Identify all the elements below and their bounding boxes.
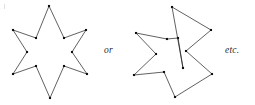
vertex-marker <box>210 29 212 31</box>
vertex-marker <box>35 65 37 67</box>
vertex-marker <box>177 37 179 39</box>
vertex-marker <box>86 73 88 75</box>
vertex-marker <box>48 5 50 7</box>
vertex-marker <box>163 71 165 73</box>
figure-canvas: or etc. <box>0 0 255 105</box>
vertex-marker <box>211 73 213 75</box>
six-pointed-star-outline <box>13 6 87 98</box>
vertex-marker <box>12 73 14 75</box>
vertex-marker <box>26 51 28 53</box>
irregular-five-pointed-star-group <box>133 6 213 98</box>
irregular-five-pointed-star-vertices <box>133 6 213 98</box>
vertex-marker <box>12 29 14 31</box>
star-polygons-svg <box>0 0 255 105</box>
caption-etc: etc. <box>225 46 239 56</box>
vertex-marker <box>155 53 157 55</box>
six-pointed-star-group <box>12 5 88 99</box>
vertex-marker <box>166 38 168 40</box>
vertex-marker <box>182 67 184 69</box>
vertex-marker <box>71 51 73 53</box>
vertex-marker <box>49 97 51 99</box>
vertex-marker <box>171 6 173 8</box>
vertex-marker <box>63 65 65 67</box>
irregular-five-pointed-star-outline <box>134 7 212 97</box>
vertex-marker <box>133 74 135 76</box>
six-pointed-star-vertices <box>12 5 88 99</box>
vertex-marker <box>185 50 187 52</box>
vertex-marker <box>135 32 137 34</box>
vertex-marker <box>174 96 176 98</box>
vertex-marker <box>85 29 87 31</box>
caption-or: or <box>104 46 113 56</box>
vertex-marker <box>35 37 37 39</box>
vertex-marker <box>63 37 65 39</box>
